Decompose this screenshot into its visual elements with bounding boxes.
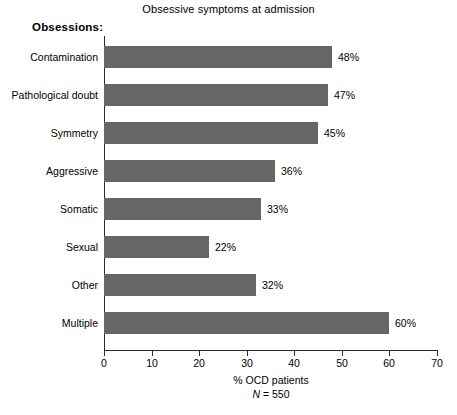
- sample-size-note: N = 550: [104, 388, 438, 401]
- bar: [104, 46, 332, 68]
- bar-value-label: 22%: [215, 241, 236, 253]
- bar-value-label: 32%: [262, 279, 283, 291]
- x-axis-label: % OCD patients: [104, 374, 438, 387]
- sample-size-value: 550: [272, 388, 290, 400]
- sample-size-symbol: N: [252, 388, 260, 400]
- sample-size-equals: =: [260, 388, 272, 400]
- category-label: Aggressive: [0, 165, 98, 177]
- plot-area: 48%47%45%36%33%22%32%60%: [104, 36, 437, 350]
- x-axis-tick-label: 40: [274, 357, 314, 369]
- category-label: Other: [0, 279, 98, 291]
- x-axis-tick-label: 30: [227, 357, 267, 369]
- chart-title: Obsessive symptoms at admission: [0, 3, 457, 16]
- bar: [104, 122, 318, 144]
- bar-row: 45%: [104, 122, 437, 144]
- x-axis-tick-label: 70: [417, 357, 457, 369]
- bar: [104, 198, 261, 220]
- bar-value-label: 36%: [281, 165, 302, 177]
- x-axis-tick: [342, 350, 343, 356]
- x-axis-tick: [104, 350, 105, 356]
- x-axis-tick: [152, 350, 153, 356]
- x-axis-line: [104, 350, 438, 351]
- bar-row: 33%: [104, 198, 437, 220]
- x-axis-tick-label: 60: [369, 357, 409, 369]
- bar-row: 32%: [104, 274, 437, 296]
- x-axis-tick: [247, 350, 248, 356]
- bar-row: 22%: [104, 236, 437, 258]
- bar: [104, 312, 389, 334]
- bar-value-label: 60%: [395, 317, 416, 329]
- x-axis-tick: [389, 350, 390, 356]
- x-axis-tick: [437, 350, 438, 356]
- x-axis-tick-label: 20: [179, 357, 219, 369]
- x-axis-tick-label: 50: [322, 357, 362, 369]
- bar-value-label: 33%: [267, 203, 288, 215]
- bar-row: 48%: [104, 46, 437, 68]
- chart-figure: Obsessive symptoms at admission Obsessio…: [0, 0, 457, 415]
- bar-row: 47%: [104, 84, 437, 106]
- x-axis-tick: [199, 350, 200, 356]
- bar-value-label: 47%: [334, 89, 355, 101]
- category-label: Multiple: [0, 317, 98, 329]
- obsessions-group-heading: Obsessions:: [32, 21, 103, 34]
- category-label: Contamination: [0, 51, 98, 63]
- bar: [104, 274, 256, 296]
- bar: [104, 236, 209, 258]
- x-axis-tick-label: 0: [84, 357, 124, 369]
- x-axis-tick-label: 10: [132, 357, 172, 369]
- x-axis-tick: [294, 350, 295, 356]
- category-label: Sexual: [0, 241, 98, 253]
- bar-value-label: 48%: [338, 51, 359, 63]
- bar-value-label: 45%: [324, 127, 345, 139]
- bar: [104, 160, 275, 182]
- category-label: Pathological doubt: [0, 89, 98, 101]
- category-label: Somatic: [0, 203, 98, 215]
- bar-row: 60%: [104, 312, 437, 334]
- bar: [104, 84, 328, 106]
- category-label: Symmetry: [0, 127, 98, 139]
- bar-row: 36%: [104, 160, 437, 182]
